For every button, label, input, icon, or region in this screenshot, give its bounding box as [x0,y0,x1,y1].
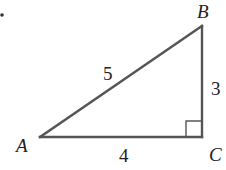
vertex-label-c: C [209,144,222,165]
side-label-ac: 4 [119,145,129,166]
bullet-dot [0,13,4,17]
side-label-bc: 3 [211,78,221,99]
vertex-label-b: B [197,1,209,22]
vertex-label-a: A [14,135,28,156]
side-label-ab: 5 [103,63,113,84]
right-triangle-diagram: A B C 5 3 4 [0,0,226,170]
right-angle-marker [186,121,202,137]
side-ab-hypotenuse [40,26,202,137]
